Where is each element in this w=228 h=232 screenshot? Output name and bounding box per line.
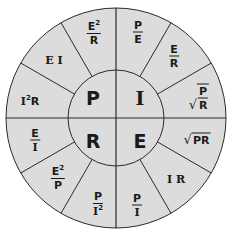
center-voltage-label: E bbox=[134, 132, 147, 151]
formula-p-over-i: PI bbox=[132, 193, 142, 218]
formula-wheel bbox=[0, 0, 228, 232]
center-resistance-label: R bbox=[86, 132, 101, 151]
center-power-label: P bbox=[86, 89, 100, 108]
formula-p-over-e: PE bbox=[133, 20, 143, 45]
formula-i-squared-r: I2R bbox=[21, 95, 40, 107]
formula-e-over-i: EI bbox=[30, 128, 40, 153]
formula-p-over-i-squared: PI2 bbox=[93, 191, 103, 217]
formula-e-over-r: ER bbox=[169, 44, 179, 69]
formula-sqrt-p-over-r: √PR bbox=[189, 84, 209, 111]
formula-sqrt-pr: √PR bbox=[184, 133, 211, 146]
formula-e-squared-over-p: E2P bbox=[51, 165, 65, 191]
center-current-label: I bbox=[136, 89, 145, 108]
formula-i-r: I R bbox=[167, 174, 185, 185]
formula-e-i: E I bbox=[45, 55, 62, 66]
formula-e-squared-over-r: E2R bbox=[87, 20, 101, 46]
